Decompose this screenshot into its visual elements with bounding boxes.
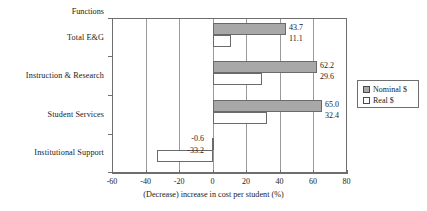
legend-swatch-nominal-icon	[363, 86, 370, 93]
bar-nominal-total-eg	[213, 23, 286, 35]
legend-label-real: Real $	[373, 95, 394, 106]
value-label-real-total-eg: 11.1	[289, 34, 303, 43]
category-tick-1	[108, 56, 112, 57]
value-label-real-instruction-research: 29.6	[320, 72, 334, 81]
bar-real-instruction-research	[213, 73, 263, 85]
x-axis-title: (Decrease) increase in cost per student …	[0, 190, 427, 199]
category-label-total-eg: Total E&G	[67, 33, 104, 42]
category-label-student-services: Student Services	[48, 110, 104, 119]
category-tick-0	[108, 18, 112, 19]
category-label-instruction-research: Instruction & Research	[26, 71, 104, 80]
bar-nominal-instruction-research	[213, 61, 317, 73]
category-tick-2	[108, 95, 112, 96]
legend-item-nominal: Nominal $	[363, 84, 413, 95]
bar-chart: Functions Total E&G Instruction & Resear…	[0, 0, 427, 211]
legend-label-nominal: Nominal $	[373, 84, 407, 95]
x-tick-label-80: 80	[327, 177, 367, 186]
x-axis-line	[112, 173, 347, 174]
bar-real-student-services	[213, 112, 267, 124]
bar-nominal-student-services	[213, 100, 322, 112]
value-label-nominal-institutional-support: -0.6	[146, 134, 204, 143]
bar-real-total-eg	[213, 35, 232, 47]
x-tick--20	[179, 170, 180, 174]
legend: Nominal $ Real $	[357, 80, 419, 108]
x-tick--40	[146, 170, 147, 174]
gridline-60	[313, 19, 314, 172]
x-tick-40	[280, 170, 281, 174]
category-tick-3	[108, 134, 112, 135]
bar-nominal-institutional-support	[212, 138, 214, 150]
value-label-real-student-services: 32.4	[325, 111, 339, 120]
x-tick-60	[313, 170, 314, 174]
category-label-institutional-support: Institutional Support	[34, 148, 104, 157]
gridline-40	[280, 19, 281, 172]
x-tick-80	[347, 170, 348, 174]
x-tick--60	[112, 170, 113, 174]
value-label-real-institutional-support: -33.2	[146, 146, 204, 155]
category-axis-header: Functions	[72, 7, 104, 16]
x-tick-20	[246, 170, 247, 174]
value-label-nominal-student-services: 65.0	[325, 100, 339, 109]
x-tick-0	[213, 170, 214, 174]
legend-item-real: Real $	[363, 95, 413, 106]
gridline-20	[246, 19, 247, 172]
value-label-nominal-instruction-research: 62.2	[320, 61, 334, 70]
value-label-nominal-total-eg: 43.7	[289, 23, 303, 32]
legend-swatch-real-icon	[363, 97, 370, 104]
